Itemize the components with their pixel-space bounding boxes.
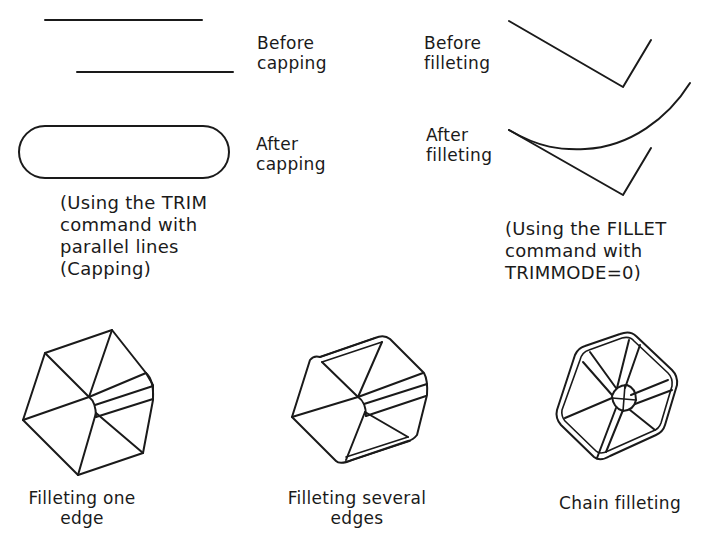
- label-line: After: [426, 125, 492, 145]
- caption-line: edge: [12, 508, 152, 528]
- fillet-note: (Using the FILLETcommand withTRIMMODE=0): [505, 218, 667, 284]
- label-line: filleting: [426, 145, 492, 165]
- note-line: command with: [60, 214, 207, 236]
- note-line: (Using the TRIM: [60, 192, 207, 214]
- fillet-after-lines: [509, 83, 690, 195]
- note-line: command with: [505, 240, 667, 262]
- caption-chain-filleting: Chain filleting: [540, 493, 700, 513]
- note-line: (Capping): [60, 258, 207, 280]
- label-line: filleting: [424, 53, 490, 73]
- solid-fillet-several-edges: [292, 336, 427, 463]
- caption-line: Filleting several: [272, 488, 442, 508]
- capping-after-label: Aftercapping: [256, 134, 326, 174]
- note-line: parallel lines: [60, 236, 207, 258]
- note-line: (Using the FILLET: [505, 218, 667, 240]
- caption-line: Chain filleting: [540, 493, 700, 513]
- caption-fillet-several-edges: Filleting severaledges: [272, 488, 442, 528]
- fillet-before-label: Beforefilleting: [424, 33, 490, 73]
- fillet-after-label: Afterfilleting: [426, 125, 492, 165]
- label-line: Before: [424, 33, 490, 53]
- caption-fillet-one-edge: Filleting oneedge: [12, 488, 152, 528]
- capping-before-lines: [45, 20, 233, 72]
- capping-note: (Using the TRIMcommand withparallel line…: [60, 192, 207, 280]
- label-line: Before: [257, 33, 327, 53]
- label-line: capping: [256, 154, 326, 174]
- label-line: capping: [257, 53, 327, 73]
- label-line: After: [256, 134, 326, 154]
- capping-before-label: Beforecapping: [257, 33, 327, 73]
- caption-line: edges: [272, 508, 442, 528]
- caption-line: Filleting one: [12, 488, 152, 508]
- fillet-before-lines: [509, 21, 651, 87]
- solid-chain-filleting: [557, 332, 678, 459]
- note-line: TRIMMODE=0): [505, 262, 667, 284]
- solid-fillet-one-edge: [23, 330, 153, 475]
- capping-after-slot: [19, 126, 229, 178]
